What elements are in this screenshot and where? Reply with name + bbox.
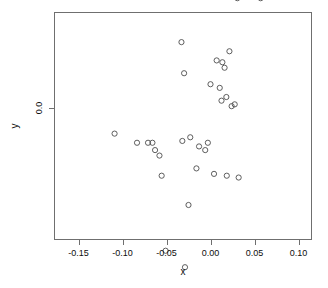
y-tick-label: 0.0	[34, 102, 44, 115]
x-tick-label: -0.15	[68, 248, 89, 258]
x-tick-label: -0.05	[156, 248, 177, 258]
x-tick-mark	[211, 240, 212, 245]
y-axis-title: y	[9, 124, 20, 129]
x-tick-label: 0.10	[290, 248, 308, 258]
scatter-plot-figure: -0.15-0.10-0.050.000.050.10 0.20.10.0-0.…	[0, 0, 328, 288]
data-point	[235, 0, 240, 1]
data-point	[258, 0, 263, 1]
plot-frame	[54, 12, 312, 240]
x-tick-mark	[123, 240, 124, 245]
x-tick-mark	[255, 240, 256, 245]
x-tick-mark	[79, 240, 80, 245]
x-tick-label: -0.10	[112, 248, 133, 258]
x-tick-label: 0.05	[246, 248, 264, 258]
y-tick-mark	[49, 108, 54, 109]
x-tick-mark	[167, 240, 168, 245]
x-tick-mark	[299, 240, 300, 245]
x-axis-title: x	[181, 266, 186, 277]
x-tick-label: 0.00	[202, 248, 220, 258]
